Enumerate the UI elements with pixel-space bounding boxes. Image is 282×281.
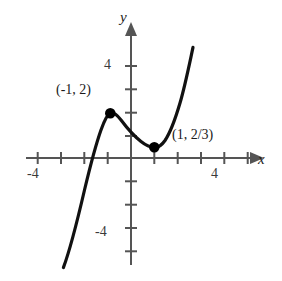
y-axis-label: y	[120, 10, 127, 25]
x-axis-label: x	[258, 152, 265, 167]
x-tick-label-pos4: 4	[211, 167, 218, 181]
local-max-point	[105, 108, 116, 119]
x-tick-label-neg4: -4	[27, 167, 39, 181]
graph-figure: x y -4 4 4 -4 (-1, 2) (1, 2/3)	[0, 0, 282, 281]
local-min-point	[149, 142, 160, 153]
coordinate-plane	[0, 0, 282, 281]
y-tick-label-neg4: -4	[95, 225, 107, 239]
local-max-annotation: (-1, 2)	[56, 83, 91, 97]
y-tick-label-pos4: 4	[104, 58, 111, 72]
local-min-annotation: (1, 2/3)	[172, 128, 213, 142]
